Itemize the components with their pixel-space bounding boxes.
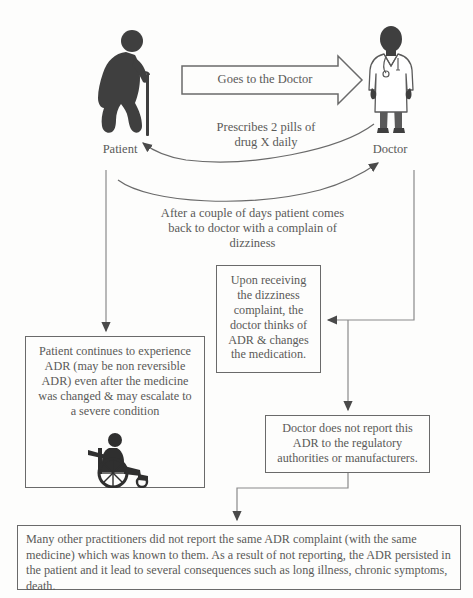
doctor-shoes-icon: [377, 128, 405, 133]
wheelchair-armrest-icon: [88, 450, 106, 459]
goes-to-doctor-label: Goes to the Doctor: [190, 72, 340, 87]
wheelchair-occupant-head-icon: [108, 433, 122, 447]
patient-figure: [88, 28, 160, 136]
patient-head-icon: [121, 30, 143, 52]
box-patient-continues-text: Patient continues to experience ADR (may…: [26, 344, 204, 418]
patient-label: Patient: [88, 142, 152, 157]
no-report-to-summary-arrow: [237, 473, 348, 520]
doctor-label: Doctor: [358, 142, 422, 157]
comes-back-label: After a couple of days patient comes bac…: [135, 206, 370, 251]
doctor-head-icon: [380, 26, 402, 52]
box-upon-receiving: Upon receiving the dizziness complaint, …: [216, 265, 321, 373]
box-summary-consequences: Many other practitioners did not report …: [17, 525, 461, 590]
box-doctor-does-not-report: Doctor does not report this ADR to the r…: [265, 415, 430, 473]
comes-back-curved-arrow: [118, 163, 378, 201]
wheelchair-spokes-icon: [99, 459, 127, 487]
prescribes-label: Prescribes 2 pills of drug X daily: [186, 120, 346, 150]
diagram-canvas: Patient Doctor Goes to the Doctor Prescr…: [0, 0, 473, 598]
wheelchair-icon: [72, 432, 158, 488]
doctor-figure: [360, 26, 422, 138]
doctor-neck-icon: [386, 50, 396, 56]
doctor-coat-icon: [369, 54, 413, 112]
patient-cane-icon: [146, 74, 149, 136]
